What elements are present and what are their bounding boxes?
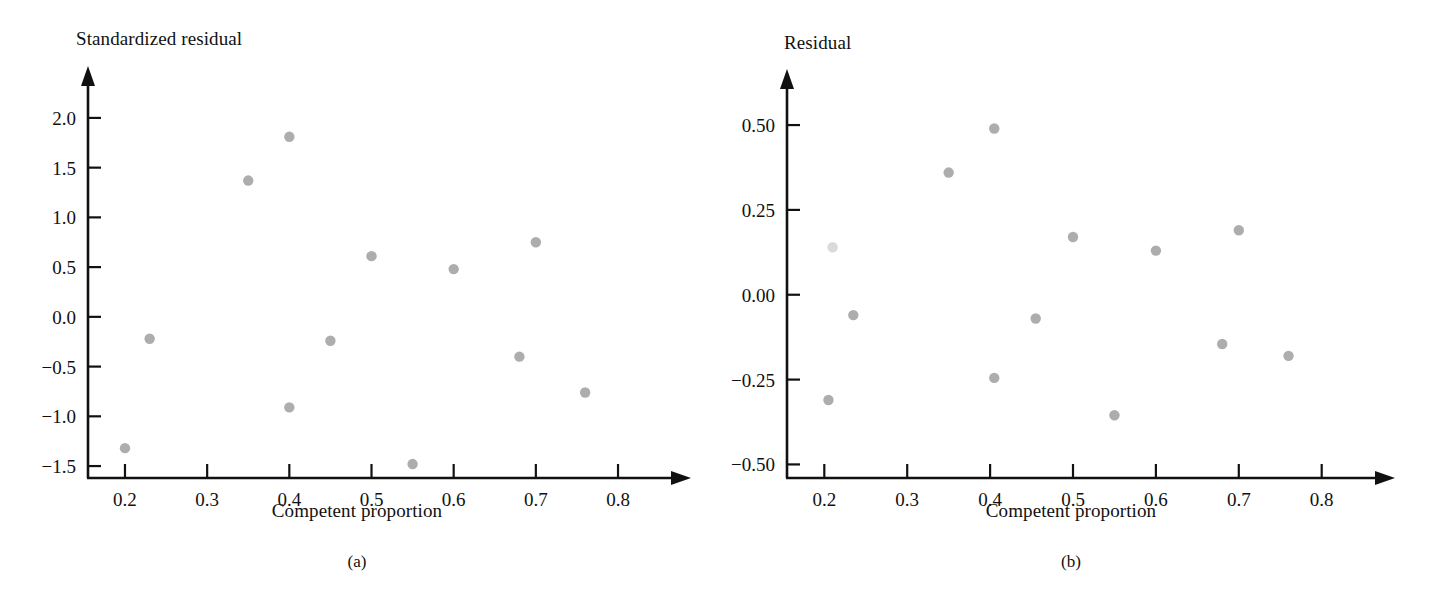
data-point xyxy=(1283,351,1293,361)
data-point xyxy=(580,387,590,397)
data-point xyxy=(1234,225,1244,235)
y-tick-label: 0.50 xyxy=(742,115,775,136)
y-tick-label: 0.0 xyxy=(52,307,76,328)
data-point xyxy=(531,237,541,247)
y-axis-title-b: Residual xyxy=(784,32,851,54)
figure-container: −1.5−1.0−0.50.00.51.01.52.00.20.30.40.50… xyxy=(0,0,1429,595)
data-point xyxy=(943,167,953,177)
y-tick-label: −0.50 xyxy=(731,454,775,475)
data-point xyxy=(144,334,154,344)
y-tick-label: 1.0 xyxy=(52,207,76,228)
data-point xyxy=(514,351,524,361)
data-point xyxy=(407,459,417,469)
y-tick-label: 0.25 xyxy=(742,200,775,221)
y-tick-label: 2.0 xyxy=(52,108,76,129)
y-tick-label: −0.25 xyxy=(731,370,775,391)
panel-b: −0.50−0.250.000.250.500.20.30.40.50.60.7… xyxy=(714,0,1428,595)
y-tick-label: −1.5 xyxy=(42,456,76,477)
y-tick-label: 0.5 xyxy=(52,257,76,278)
y-tick-label: −0.5 xyxy=(42,357,76,378)
x-axis-title-a: Competent proportion xyxy=(0,500,754,522)
data-point xyxy=(284,132,294,142)
data-point xyxy=(827,242,837,252)
data-point xyxy=(1109,410,1119,420)
data-point xyxy=(366,251,376,261)
data-point xyxy=(120,443,130,453)
panel-caption-b: (b) xyxy=(714,552,1429,572)
panel-a: −1.5−1.0−0.50.00.51.01.52.00.20.30.40.50… xyxy=(0,0,714,595)
data-point xyxy=(989,123,999,133)
data-point xyxy=(1151,245,1161,255)
data-point xyxy=(284,402,294,412)
data-point xyxy=(243,175,253,185)
y-tick-label: 0.00 xyxy=(742,285,775,306)
data-point xyxy=(448,264,458,274)
data-point xyxy=(325,336,335,346)
data-point xyxy=(823,395,833,405)
y-axis-title-a: Standardized residual xyxy=(76,28,242,50)
y-tick-label: −1.0 xyxy=(42,406,76,427)
data-point xyxy=(1031,313,1041,323)
data-point xyxy=(1217,339,1227,349)
y-tick-label: 1.5 xyxy=(52,158,76,179)
x-axis-title-b: Competent proportion xyxy=(714,500,1429,522)
data-point xyxy=(1068,232,1078,242)
data-point xyxy=(989,373,999,383)
data-point xyxy=(848,310,858,320)
panel-caption-a: (a) xyxy=(0,552,754,572)
